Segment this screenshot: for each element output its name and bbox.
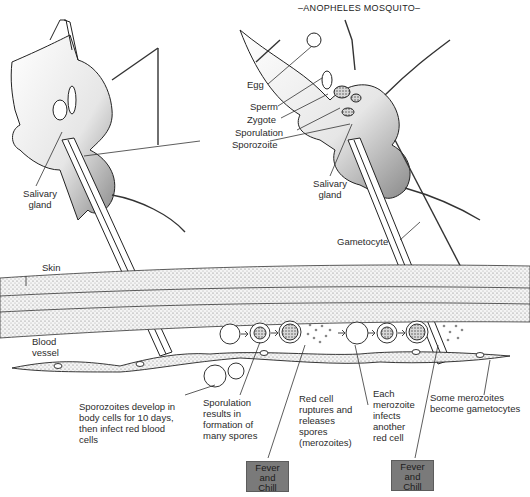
caption-red-cell-ruptures: Red cell ruptures and releases spores (m…	[299, 393, 355, 448]
label-zygote: Zygote	[247, 114, 276, 125]
symptom-box-fever-chill-1: Fever and Chill	[246, 461, 289, 492]
caption-each-merozoite: Each merozoite infects another red cell	[373, 388, 421, 443]
left-legs	[112, 48, 185, 232]
diagram-title: –ANOPHELES MOSQUITO–	[298, 3, 420, 13]
blood-vessel	[12, 350, 510, 373]
label-sporulation: Sporulation	[235, 127, 283, 138]
symptom-line: Chill	[392, 482, 433, 492]
label-gametocyte: Gametocyte	[337, 236, 388, 247]
label-egg: Egg	[247, 79, 264, 90]
label-sperm: Sperm	[250, 101, 278, 112]
caption-sporozoites-develop: Sporozoites develop in body cells for 10…	[79, 401, 183, 445]
caption-sporulation: Sporulation results in formation of many…	[203, 397, 275, 441]
symptom-line: Chill	[247, 483, 288, 493]
label-sporozoite: Sporozoite	[232, 139, 277, 150]
malaria-life-cycle-diagram: –ANOPHELES MOSQUITO– Egg Sperm Zygote Sp…	[0, 0, 530, 497]
label-blood-vessel: Blood vessel	[32, 336, 62, 358]
label-skin: Skin	[42, 262, 60, 273]
label-salivary-gland-right: Salivary gland	[308, 178, 352, 200]
symptom-box-fever-chill-2: Fever and Chill	[391, 460, 434, 491]
label-salivary-gland-left: Salivary gland	[18, 188, 62, 210]
caption-some-merozoites: Some merozoites become gametocytes	[430, 392, 528, 414]
